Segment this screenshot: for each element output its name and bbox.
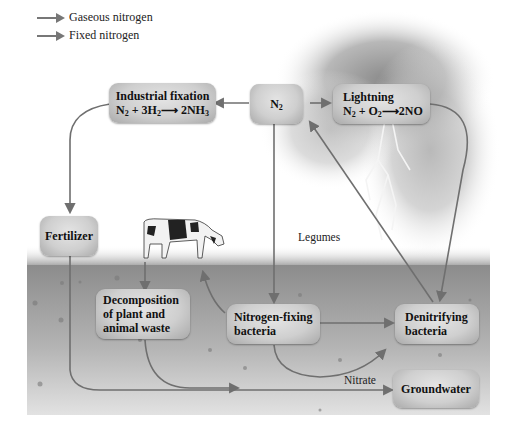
node-nitrogen-fixing-bacteria: Nitrogen-fixing bacteria xyxy=(227,304,320,344)
node-title: N2 xyxy=(270,97,283,111)
node-title: Industrial fixation xyxy=(116,89,210,103)
node-denitrifying-bacteria: Denitrifying bacteria xyxy=(395,304,479,344)
node-line: animal waste xyxy=(103,321,190,335)
node-equation: N2 + 3H2⟶ 2NH3 xyxy=(116,103,209,117)
node-line: Decomposition xyxy=(103,293,190,307)
node-decomposition: Decomposition of plant and animal waste xyxy=(96,289,190,339)
node-lightning: Lightning N2 + O2⟶2NO xyxy=(333,84,430,124)
arrow-industrial-to-fertilizer xyxy=(70,104,110,212)
legend-label: Gaseous nitrogen xyxy=(69,10,153,25)
legend-label: Fixed nitrogen xyxy=(69,28,139,43)
node-groundwater: Groundwater xyxy=(393,370,479,408)
arrow-icon xyxy=(37,13,65,23)
arrow-icon xyxy=(37,31,65,41)
legend-fixed: Fixed nitrogen xyxy=(37,28,139,43)
node-line: Denitrifying xyxy=(405,310,479,324)
node-fertilizer: Fertilizer xyxy=(40,216,98,256)
node-industrial-fixation: Industrial fixation N2 + 3H2⟶ 2NH3 xyxy=(109,83,216,123)
node-n2: N2 xyxy=(250,84,303,124)
node-line: of plant and xyxy=(103,307,190,321)
legumes-label: Legumes xyxy=(298,231,340,243)
storm-cloud xyxy=(260,10,500,260)
node-title: Fertilizer xyxy=(45,229,93,243)
nitrate-label: Nitrate xyxy=(344,374,376,386)
node-title: Groundwater xyxy=(401,382,471,396)
node-line: bacteria xyxy=(234,324,320,338)
node-equation: N2 + O2⟶2NO xyxy=(343,104,430,118)
legend-gaseous: Gaseous nitrogen xyxy=(37,10,153,25)
node-line: bacteria xyxy=(405,324,479,338)
node-title: Lightning xyxy=(343,90,430,104)
node-line: Nitrogen-fixing xyxy=(234,310,320,324)
